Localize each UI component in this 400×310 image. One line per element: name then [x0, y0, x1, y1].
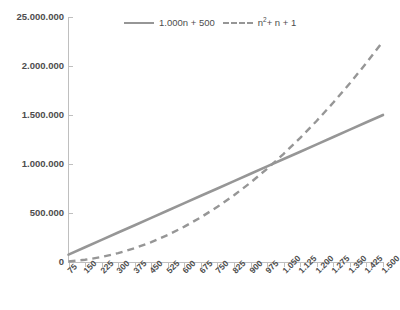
chart-container: 1.000n + 500 n2+ n + 1 0500.0001.000.000… [0, 0, 400, 310]
series-line-linear [69, 115, 384, 255]
plot-area [0, 0, 400, 310]
series-line-quadratic [69, 41, 384, 261]
